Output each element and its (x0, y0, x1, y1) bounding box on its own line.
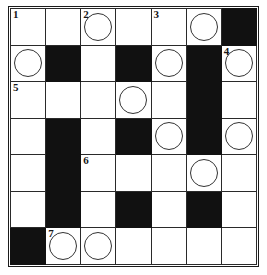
crossword-cell-r2c3[interactable] (81, 45, 116, 82)
cell-inner (46, 9, 80, 45)
crossword-cell-r4c5[interactable] (151, 118, 186, 155)
crossword-block-r2c6 (186, 45, 221, 82)
crossword-puzzle: 1234567 (0, 0, 267, 275)
crossword-cell-r7c6[interactable] (186, 228, 221, 265)
cell-inner: 7 (46, 228, 80, 264)
crossword-row: 5 (11, 82, 257, 119)
crossword-block-r1c7 (221, 9, 256, 46)
clue-number: 1 (13, 8, 19, 20)
cell-inner: 3 (152, 9, 186, 45)
cell-inner (46, 192, 80, 228)
cell-inner (81, 82, 115, 118)
crossword-cell-r4c7[interactable] (221, 118, 256, 155)
crossword-cell-r1c6[interactable] (186, 9, 221, 46)
cell-inner (116, 228, 150, 264)
crossword-cell-r1c4[interactable] (116, 9, 151, 46)
cell-inner (11, 228, 45, 264)
cell-inner (116, 82, 150, 118)
crossword-cell-r5c6[interactable] (186, 155, 221, 192)
clue-number: 7 (48, 227, 54, 239)
crossword-cell-r1c5[interactable]: 3 (151, 9, 186, 46)
circle-marker-icon (155, 49, 183, 77)
clue-number: 5 (13, 81, 19, 93)
cell-inner (11, 192, 45, 228)
crossword-grid-frame: 1234567 (8, 6, 259, 267)
cell-inner (152, 228, 186, 264)
cell-inner (222, 119, 256, 155)
crossword-cell-r3c4[interactable] (116, 82, 151, 119)
cell-inner (187, 9, 221, 45)
crossword-block-r7c1 (11, 228, 46, 265)
circle-marker-icon (225, 122, 253, 150)
cell-inner (81, 228, 115, 264)
crossword-block-r4c6 (186, 118, 221, 155)
crossword-cell-r5c4[interactable] (116, 155, 151, 192)
crossword-cell-r6c5[interactable] (151, 191, 186, 228)
crossword-block-r4c2 (46, 118, 81, 155)
crossword-cell-r7c4[interactable] (116, 228, 151, 265)
crossword-cell-r1c1[interactable]: 1 (11, 9, 46, 46)
cell-inner (116, 155, 150, 191)
crossword-cell-r2c1[interactable] (11, 45, 46, 82)
cell-inner (222, 155, 256, 191)
crossword-cell-r3c5[interactable] (151, 82, 186, 119)
crossword-cell-r5c7[interactable] (221, 155, 256, 192)
cell-inner: 1 (11, 9, 45, 45)
cell-inner (11, 155, 45, 191)
circle-marker-icon (119, 86, 147, 114)
crossword-cell-r3c2[interactable] (46, 82, 81, 119)
crossword-row (11, 191, 257, 228)
crossword-row: 4 (11, 45, 257, 82)
crossword-cell-r5c1[interactable] (11, 155, 46, 192)
crossword-cell-r3c1[interactable]: 5 (11, 82, 46, 119)
crossword-block-r3c6 (186, 82, 221, 119)
cell-inner (46, 119, 80, 155)
crossword-block-r6c2 (46, 191, 81, 228)
crossword-cell-r5c3[interactable]: 6 (81, 155, 116, 192)
cell-inner (152, 155, 186, 191)
crossword-block-r4c4 (116, 118, 151, 155)
crossword-row: 6 (11, 155, 257, 192)
cell-inner (187, 46, 221, 82)
cell-inner: 5 (11, 82, 45, 118)
cell-inner (152, 82, 186, 118)
circle-marker-icon (14, 49, 42, 77)
crossword-cell-r6c3[interactable] (81, 191, 116, 228)
crossword-cell-r1c3[interactable]: 2 (81, 9, 116, 46)
circle-marker-icon (190, 159, 218, 187)
crossword-cell-r6c7[interactable] (221, 191, 256, 228)
crossword-row (11, 118, 257, 155)
cell-inner (81, 119, 115, 155)
crossword-cell-r7c3[interactable] (81, 228, 116, 265)
crossword-cell-r6c1[interactable] (11, 191, 46, 228)
crossword-cell-r7c7[interactable] (221, 228, 256, 265)
cell-inner (11, 119, 45, 155)
crossword-block-r6c4 (116, 191, 151, 228)
crossword-cell-r2c7[interactable]: 4 (221, 45, 256, 82)
cell-inner (81, 192, 115, 228)
cell-inner (222, 192, 256, 228)
crossword-cell-r4c1[interactable] (11, 118, 46, 155)
cell-inner: 2 (81, 9, 115, 45)
crossword-cell-r3c7[interactable] (221, 82, 256, 119)
crossword-cell-r5c5[interactable] (151, 155, 186, 192)
cell-inner (81, 46, 115, 82)
clue-number: 4 (224, 45, 230, 57)
clue-number: 2 (83, 8, 89, 20)
crossword-cell-r1c2[interactable] (46, 9, 81, 46)
crossword-cell-r3c3[interactable] (81, 82, 116, 119)
cell-inner (187, 155, 221, 191)
cell-inner (222, 228, 256, 264)
crossword-cell-r2c5[interactable] (151, 45, 186, 82)
cell-inner (116, 192, 150, 228)
crossword-cell-r7c2[interactable]: 7 (46, 228, 81, 265)
cell-inner (222, 82, 256, 118)
crossword-grid: 1234567 (10, 8, 257, 265)
cell-inner: 6 (81, 155, 115, 191)
circle-marker-icon (190, 13, 218, 41)
cell-inner: 4 (222, 46, 256, 82)
crossword-cell-r4c3[interactable] (81, 118, 116, 155)
cell-inner (187, 192, 221, 228)
cell-inner (11, 46, 45, 82)
crossword-cell-r7c5[interactable] (151, 228, 186, 265)
